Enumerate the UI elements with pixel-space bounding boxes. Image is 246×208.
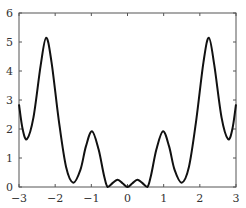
x-tick-label: 3 <box>233 192 240 205</box>
x-tick-label: −2 <box>47 192 63 205</box>
y-tick-label: 3 <box>6 94 13 107</box>
x-axis-tick-labels: −3−2−10123 <box>11 192 240 205</box>
data-series-line <box>19 38 236 187</box>
y-tick-label: 0 <box>6 181 13 194</box>
axis-ticks <box>19 13 236 187</box>
x-tick-label: −1 <box>83 192 99 205</box>
x-tick-label: 0 <box>124 192 131 205</box>
y-tick-label: 4 <box>6 65 13 78</box>
y-axis-tick-labels: 0123456 <box>6 7 13 194</box>
line-chart: −3−2−10123 0123456 <box>0 0 246 208</box>
x-tick-label: 2 <box>196 192 203 205</box>
y-tick-label: 2 <box>6 123 13 136</box>
y-tick-label: 1 <box>6 152 13 165</box>
y-tick-label: 6 <box>6 7 13 20</box>
plot-frame <box>19 13 236 187</box>
x-tick-label: −3 <box>11 192 27 205</box>
y-tick-label: 5 <box>6 36 13 49</box>
x-tick-label: 1 <box>160 192 167 205</box>
